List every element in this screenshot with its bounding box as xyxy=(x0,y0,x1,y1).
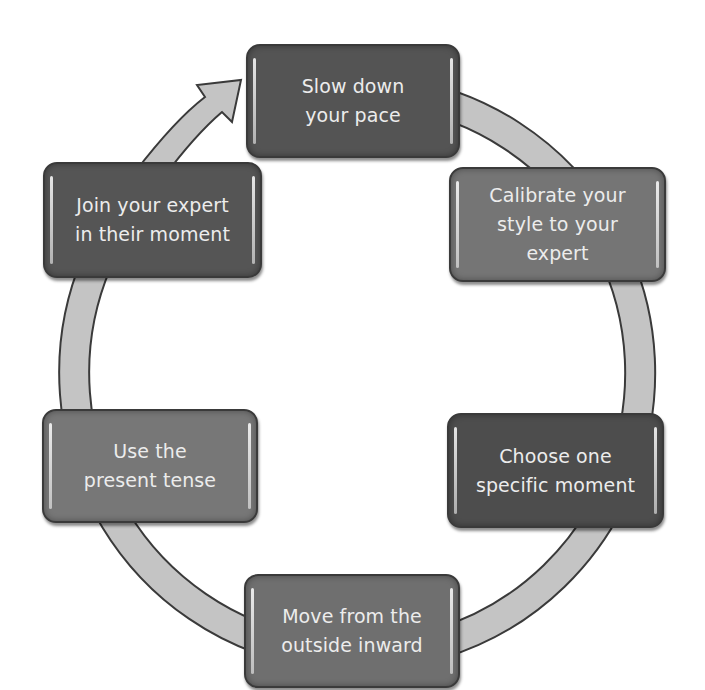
step-label: Join your expert in their moment xyxy=(75,191,230,249)
step-label: Slow down your pace xyxy=(302,72,405,130)
step-move-from-outside-inward: Move from the outside inward xyxy=(244,574,460,688)
step-use-present-tense: Use the present tense xyxy=(42,409,258,523)
step-label: Move from the outside inward xyxy=(281,602,423,660)
step-calibrate-your-style: Calibrate your style to your expert xyxy=(449,167,666,282)
step-choose-one-specific-moment: Choose one specific moment xyxy=(447,413,664,528)
step-join-your-expert: Join your expert in their moment xyxy=(43,162,262,278)
step-label: Calibrate your style to your expert xyxy=(489,181,625,268)
cycle-diagram: Slow down your pace Calibrate your style… xyxy=(0,0,705,690)
step-label: Choose one specific moment xyxy=(476,442,635,500)
step-label: Use the present tense xyxy=(84,437,216,495)
step-slow-down-your-pace: Slow down your pace xyxy=(246,44,460,158)
